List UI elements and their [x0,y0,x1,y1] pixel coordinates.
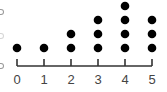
data-dot [94,30,103,39]
data-dot [121,44,130,53]
data-dot [94,44,103,53]
tick-label: 1 [40,72,47,87]
data-dot [67,30,76,39]
data-dot [94,16,103,25]
data-dot [121,30,130,39]
tick-label: 5 [148,72,155,87]
tick-label: 3 [94,72,101,87]
tick-label: 2 [67,72,74,87]
x-axis [17,59,152,66]
dot-plot: 012345 [0,0,167,92]
data-dot [148,30,157,39]
x-tick-labels: 012345 [13,72,155,87]
data-dot [40,44,49,53]
data-dot [121,2,130,11]
data-dot [148,44,157,53]
dots [13,2,157,53]
data-dot [67,44,76,53]
data-dot [148,16,157,25]
data-dot [13,44,22,53]
data-dot [121,16,130,25]
tick-label: 0 [13,72,20,87]
tick-label: 4 [121,72,128,87]
